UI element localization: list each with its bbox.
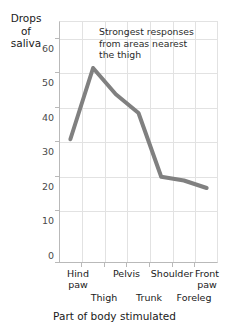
y-tick-label-20: 20 [28,182,54,192]
gridline-x-1 [82,22,83,262]
x-label-hind-paw-line1: Hind [56,268,100,279]
chart-annotation-line-1: Strongest responses [99,26,217,38]
x-tick-mark-4 [149,263,150,267]
x-label-trunk: Trunk [126,292,172,303]
saliva-response-line-chart: Drops of saliva 60 50 40 30 20 10 0 Hind [0,0,229,329]
x-label-front-paw-line2: paw [185,279,229,290]
gridline-y-40 [60,108,217,109]
y-tick-label-30: 30 [28,147,54,157]
y-tick-mark-20 [55,176,59,177]
gridline-y-20 [60,177,217,178]
x-tick-mark-5 [172,263,173,267]
chart-annotation-line-3: the thigh [99,49,217,61]
y-tick-mark-10 [55,210,59,211]
gridline-y-10 [60,211,217,212]
y-tick-label-60: 60 [28,44,54,54]
y-tick-label-0: 0 [28,251,54,261]
gridline-y-50 [60,73,217,74]
y-tick-mark-40 [55,107,59,108]
x-tick-mark-6 [194,263,195,267]
chart-annotation: Strongest responses from areas nearest t… [99,26,217,61]
y-tick-mark-50 [55,72,59,73]
x-axis-title: Part of body stimulated [0,310,229,322]
y-tick-mark-60 [55,38,59,39]
x-label-thigh: Thigh [81,292,127,303]
y-tick-label-40: 40 [28,113,54,123]
y-tick-mark-0 [55,262,59,263]
x-label-front-paw: Front paw [185,268,229,290]
x-label-pelvis: Pelvis [104,268,149,279]
x-tick-mark-3 [126,263,127,267]
gridline-y-30 [60,142,217,143]
x-label-foreleg: Foreleg [169,292,219,303]
x-label-hind-paw-line2: paw [56,279,100,290]
x-label-hind-paw: Hind paw [56,268,100,290]
chart-annotation-line-2: from areas nearest [99,38,217,50]
y-axis-title-line-2: of [0,25,52,38]
y-tick-label-10: 10 [28,216,54,226]
x-label-front-paw-line1: Front [185,268,229,279]
y-tick-label-50: 50 [28,78,54,88]
y-axis-title-line-1: Drops [0,12,52,25]
x-tick-mark-2 [104,263,105,267]
x-tick-mark-1 [81,263,82,267]
y-tick-mark-30 [55,141,59,142]
